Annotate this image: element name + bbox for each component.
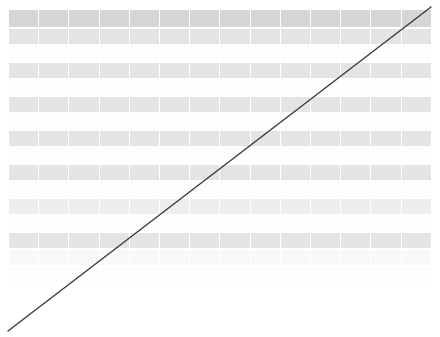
table-cell[interactable] [9,216,38,231]
table-cell[interactable] [9,29,38,44]
table-cell[interactable] [69,216,98,231]
table-row[interactable] [9,80,431,95]
table-cell[interactable] [130,46,159,61]
table-cell[interactable] [251,131,280,146]
table-cell[interactable] [100,182,129,197]
table-cell[interactable] [341,216,370,231]
table-cell[interactable] [160,148,189,163]
table-cell[interactable] [402,63,431,78]
table-cell[interactable] [130,63,159,78]
column-header-cell[interactable] [220,10,249,27]
table-cell[interactable] [402,165,431,180]
table-cell[interactable] [100,131,129,146]
table-cell[interactable] [281,80,310,95]
table-cell[interactable] [341,165,370,180]
table-cell[interactable] [100,165,129,180]
table-row[interactable] [9,148,431,163]
table-cell[interactable] [311,148,340,163]
table-cell[interactable] [341,267,370,282]
table-cell[interactable] [100,80,129,95]
table-cell[interactable] [190,46,219,61]
table-cell[interactable] [190,182,219,197]
table-cell[interactable] [69,63,98,78]
table-cell[interactable] [9,267,38,282]
table-cell[interactable] [371,80,400,95]
table-cell[interactable] [341,63,370,78]
table-cell[interactable] [130,29,159,44]
table-cell[interactable] [160,250,189,265]
column-header-cell[interactable] [371,10,400,27]
table-cell[interactable] [69,114,98,129]
table-cell[interactable] [39,165,68,180]
table-cell[interactable] [220,233,249,248]
table-cell[interactable] [402,131,431,146]
table-cell[interactable] [311,216,340,231]
table-cell[interactable] [190,148,219,163]
table-row[interactable] [9,131,431,146]
table-cell[interactable] [281,233,310,248]
table-cell[interactable] [9,46,38,61]
table-cell[interactable] [402,267,431,282]
table-cell[interactable] [69,46,98,61]
table-cell[interactable] [281,165,310,180]
table-cell[interactable] [130,250,159,265]
table-cell[interactable] [9,131,38,146]
table-cell[interactable] [281,29,310,44]
table-cell[interactable] [341,131,370,146]
table-cell[interactable] [402,97,431,112]
table-cell[interactable] [160,46,189,61]
table-cell[interactable] [251,114,280,129]
table-cell[interactable] [220,182,249,197]
table-cell[interactable] [371,46,400,61]
table-cell[interactable] [39,63,68,78]
table-cell[interactable] [9,63,38,78]
table-cell[interactable] [220,148,249,163]
table-cell[interactable] [100,97,129,112]
table-cell[interactable] [402,114,431,129]
table-cell[interactable] [311,165,340,180]
table-cell[interactable] [100,114,129,129]
table-cell[interactable] [69,148,98,163]
table-cell[interactable] [220,216,249,231]
table-cell[interactable] [341,199,370,214]
table-cell[interactable] [341,233,370,248]
column-header-cell[interactable] [69,10,98,27]
table-cell[interactable] [130,182,159,197]
table-row[interactable] [9,97,431,112]
table-cell[interactable] [220,165,249,180]
table-cell[interactable] [402,216,431,231]
table-cell[interactable] [311,182,340,197]
table-cell[interactable] [39,216,68,231]
column-header-cell[interactable] [311,10,340,27]
table-cell[interactable] [402,199,431,214]
table-cell[interactable] [69,199,98,214]
table-cell[interactable] [69,250,98,265]
table-cell[interactable] [190,131,219,146]
column-header-cell[interactable] [130,10,159,27]
table-cell[interactable] [100,250,129,265]
table-cell[interactable] [9,165,38,180]
table-cell[interactable] [371,233,400,248]
table-cell[interactable] [9,148,38,163]
table-cell[interactable] [100,29,129,44]
table-cell[interactable] [9,114,38,129]
column-header-cell[interactable] [39,10,68,27]
table-cell[interactable] [281,114,310,129]
table-cell[interactable] [9,250,38,265]
table-cell[interactable] [220,250,249,265]
table-cell[interactable] [371,199,400,214]
table-cell[interactable] [39,29,68,44]
table-cell[interactable] [281,97,310,112]
table-cell[interactable] [311,97,340,112]
table-cell[interactable] [402,182,431,197]
table-cell[interactable] [251,182,280,197]
table-cell[interactable] [371,63,400,78]
table-cell[interactable] [220,114,249,129]
table-cell[interactable] [402,233,431,248]
table-cell[interactable] [281,216,310,231]
table-cell[interactable] [69,233,98,248]
table-cell[interactable] [220,46,249,61]
table-cell[interactable] [311,250,340,265]
table-cell[interactable] [371,165,400,180]
table-cell[interactable] [220,97,249,112]
